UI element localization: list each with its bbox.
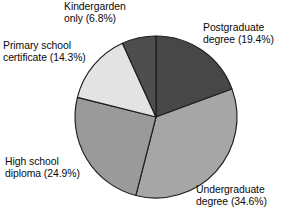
pie-chart: Kindergarden only (6.8%) Postgraduate de… xyxy=(0,0,294,221)
slice-label-high-school: High school diploma (24.9%) xyxy=(5,156,105,181)
slice-label-undergraduate: Undergraduate degree (34.6%) xyxy=(196,184,294,209)
slice-label-primary-school: Primary school certificate (14.3%) xyxy=(3,40,111,65)
slice-label-postgraduate: Postgraduate degree (19.4%) xyxy=(203,22,294,47)
slice-label-kindergarden: Kindergarden only (6.8%) xyxy=(64,1,168,26)
